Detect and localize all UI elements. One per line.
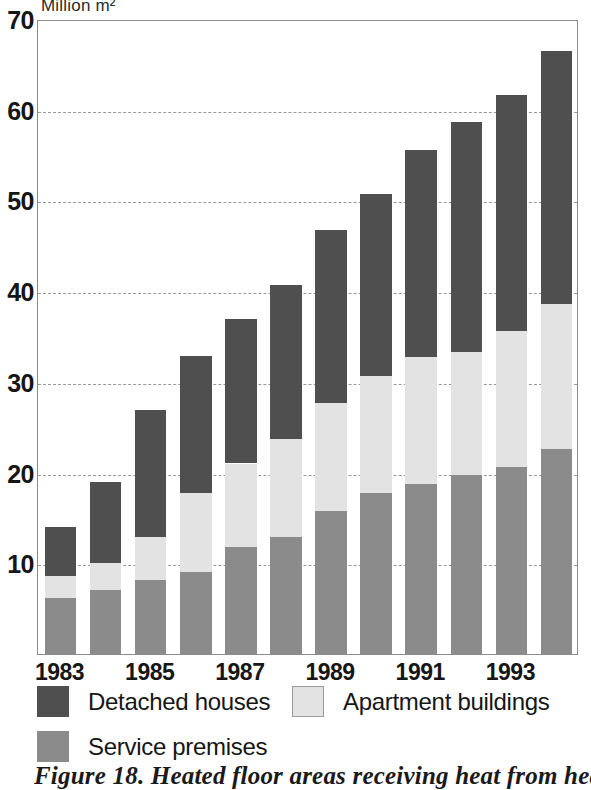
x-tick-label-1991: 1991 — [396, 659, 445, 686]
bar-1988 — [270, 19, 302, 654]
bar-segment-detached-1992 — [451, 122, 483, 352]
bar-segment-detached-1991 — [405, 150, 437, 358]
y-tick-label-30: 30 — [0, 368, 34, 397]
bar-1983 — [45, 19, 77, 654]
legend-label-detached: Detached houses — [88, 688, 270, 716]
x-tick-label-1983: 1983 — [35, 659, 84, 686]
bar-1993 — [496, 19, 528, 654]
bar-segment-service-1987 — [225, 547, 257, 654]
bar-1991 — [405, 19, 437, 654]
bar-1990 — [360, 19, 392, 654]
bar-segment-service-1985 — [135, 580, 167, 654]
legend-item-service[interactable]: Service premises — [37, 731, 267, 762]
figure-caption: Figure 18. Heated floor areas receiving … — [34, 762, 591, 790]
bar-segment-service-1984 — [90, 590, 122, 654]
bar-segment-service-1991 — [405, 484, 437, 654]
bar-segment-service-1993 — [496, 467, 528, 654]
bar-1986 — [180, 19, 212, 654]
bar-segment-detached-1990 — [360, 194, 392, 376]
bar-segment-detached-1989 — [315, 230, 347, 402]
bar-segment-detached-1985 — [135, 410, 167, 537]
bar-segment-apartment-1984 — [90, 563, 122, 589]
x-tick-label-1989: 1989 — [305, 659, 354, 686]
bar-segment-apartment-1987 — [225, 464, 257, 547]
bar-segment-apartment-1990 — [360, 376, 392, 493]
bar-segment-detached-1994 — [541, 51, 573, 304]
bar-1994 — [541, 19, 573, 654]
y-tick-label-60: 60 — [0, 96, 34, 125]
bar-segment-apartment-1993 — [496, 331, 528, 467]
plot-area — [37, 20, 578, 655]
bar-segment-apartment-1986 — [180, 493, 212, 573]
bar-segment-apartment-1985 — [135, 537, 167, 580]
bar-1985 — [135, 19, 167, 654]
legend-swatch-apartment — [292, 686, 324, 717]
y-tick-label-10: 10 — [0, 550, 34, 579]
bar-segment-service-1992 — [451, 475, 483, 654]
bar-segment-service-1990 — [360, 493, 392, 654]
bar-segment-apartment-1991 — [405, 357, 437, 484]
bar-1984 — [90, 19, 122, 654]
bar-1989 — [315, 19, 347, 654]
x-tick-label-1993: 1993 — [486, 659, 535, 686]
bar-segment-detached-1988 — [270, 285, 302, 439]
x-tick-label-1987: 1987 — [215, 659, 264, 686]
bar-segment-service-1988 — [270, 537, 302, 654]
bar-segment-detached-1986 — [180, 356, 212, 493]
y-tick-label-70: 70 — [0, 6, 34, 35]
bar-segment-detached-1984 — [90, 482, 122, 564]
bar-segment-service-1989 — [315, 511, 347, 654]
y-tick-label-20: 20 — [0, 459, 34, 488]
bar-segment-service-1986 — [180, 572, 212, 654]
bar-segment-apartment-1992 — [451, 352, 483, 475]
bar-segment-detached-1983 — [45, 527, 77, 576]
y-axis-unit-label: Million m² — [41, 0, 116, 16]
y-tick-label-50: 50 — [0, 187, 34, 216]
bar-1987 — [225, 19, 257, 654]
x-tick-label-1985: 1985 — [125, 659, 174, 686]
bar-segment-service-1983 — [45, 598, 77, 654]
bar-segment-detached-1987 — [225, 319, 257, 463]
legend-item-detached[interactable]: Detached houses — [37, 686, 270, 717]
bar-1992 — [451, 19, 483, 654]
legend-swatch-service — [37, 731, 69, 762]
bar-segment-detached-1993 — [496, 95, 528, 331]
legend-label-apartment: Apartment buildings — [343, 688, 549, 716]
legend-item-apartment[interactable]: Apartment buildings — [292, 686, 549, 717]
bar-segment-apartment-1988 — [270, 439, 302, 537]
bar-segment-apartment-1989 — [315, 403, 347, 511]
bar-segment-apartment-1983 — [45, 576, 77, 598]
bar-segment-service-1994 — [541, 449, 573, 654]
legend-swatch-detached — [37, 686, 69, 717]
legend-label-service: Service premises — [88, 733, 267, 761]
bar-segment-apartment-1994 — [541, 304, 573, 449]
y-tick-label-40: 40 — [0, 278, 34, 307]
bars-group — [38, 21, 577, 654]
